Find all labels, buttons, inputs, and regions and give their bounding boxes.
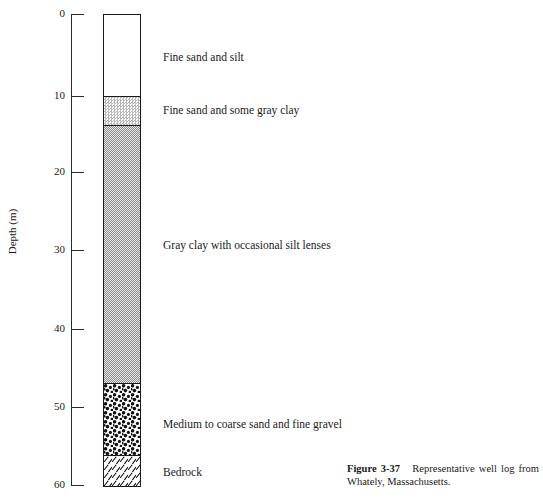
axis-tick-label: 40 bbox=[39, 323, 65, 334]
litho-layer-sand-and-gravel bbox=[104, 384, 140, 456]
axis-tick-label: 60 bbox=[39, 479, 65, 490]
layer-label-bedrock: Bedrock bbox=[163, 466, 202, 479]
axis-tick-10: 10 bbox=[0, 96, 84, 97]
axis-tick-label: 0 bbox=[39, 8, 65, 19]
axis-tick-20: 20 bbox=[0, 172, 84, 173]
layer-label-gray-clay: Gray clay with occasional silt lenses bbox=[163, 239, 331, 252]
layer-label-sand-and-gravel: Medium to coarse sand and fine gravel bbox=[163, 418, 342, 431]
axis-tick-mark bbox=[71, 407, 84, 408]
axis-title-depth: Depth (m) bbox=[7, 202, 18, 262]
litho-layer-gray-clay bbox=[104, 126, 140, 384]
axis-tick-mark bbox=[71, 172, 84, 173]
axis-tick-mark bbox=[71, 96, 84, 97]
axis-tick-mark bbox=[71, 329, 84, 330]
axis-tick-0: 0 bbox=[0, 14, 84, 15]
axis-tick-50: 50 bbox=[0, 407, 84, 408]
axis-tick-60: 60 bbox=[0, 485, 84, 486]
axis-tick-mark bbox=[71, 14, 84, 15]
lithology-column bbox=[103, 14, 141, 487]
axis-tick-label: 30 bbox=[39, 244, 65, 255]
litho-layer-bedrock bbox=[104, 456, 140, 486]
litho-layer-fine-sand-and-some-gray-clay bbox=[104, 97, 140, 126]
axis-tick-mark bbox=[71, 485, 84, 486]
axis-tick-mark bbox=[71, 250, 84, 251]
axis-tick-40: 40 bbox=[0, 329, 84, 330]
layer-label-fine-sand-and-silt: Fine sand and silt bbox=[163, 51, 244, 64]
figure-caption-number: Figure 3-37 bbox=[347, 463, 400, 474]
figure-caption: Figure 3-37 Representative well log from… bbox=[347, 462, 539, 488]
litho-layer-fine-sand-and-silt bbox=[104, 15, 140, 97]
axis-tick-label: 10 bbox=[39, 90, 65, 101]
axis-tick-label: 50 bbox=[39, 401, 65, 412]
layer-label-fine-sand-and-some-gray-clay: Fine sand and some gray clay bbox=[163, 104, 299, 117]
well-log-figure: 0 10 20 30 40 50 60 Depth (m) bbox=[0, 0, 543, 499]
axis-tick-label: 20 bbox=[39, 166, 65, 177]
